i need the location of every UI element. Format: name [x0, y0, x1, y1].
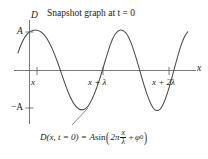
- equation-fraction: x λ: [120, 129, 126, 146]
- x-tick-label-x-plus-lambda: x + λ: [88, 78, 106, 87]
- equation-sin-function: sin: [95, 133, 106, 142]
- y-axis-label: D: [31, 11, 38, 21]
- equation-phase-subscript: 0: [140, 134, 143, 141]
- wave-equation: D(x, t = 0) = A sin ( 2π x λ + φ 0 ): [40, 129, 148, 146]
- equation-open-paren: (: [106, 130, 109, 145]
- equation-fraction-numerator: x: [120, 129, 126, 137]
- equation-coefficient: 2π: [110, 133, 119, 142]
- y-tick-label-a: A: [17, 27, 23, 37]
- equation-close-paren: ): [144, 130, 147, 145]
- x-tick-label-x-plus-2lambda: x + 2λ: [152, 78, 175, 87]
- x-axis-label: x: [197, 64, 201, 74]
- x-tick-label-x: x: [31, 78, 35, 87]
- equation-lhs: D(x, t = 0) =: [40, 133, 87, 142]
- equation-plus-sign: +: [128, 133, 133, 142]
- figure-title: Snapshot graph at t = 0: [47, 9, 135, 19]
- y-tick-label-negative-a: −A: [11, 103, 23, 113]
- equation-fraction-denominator: λ: [120, 137, 125, 146]
- equation-leader-line: [72, 108, 88, 125]
